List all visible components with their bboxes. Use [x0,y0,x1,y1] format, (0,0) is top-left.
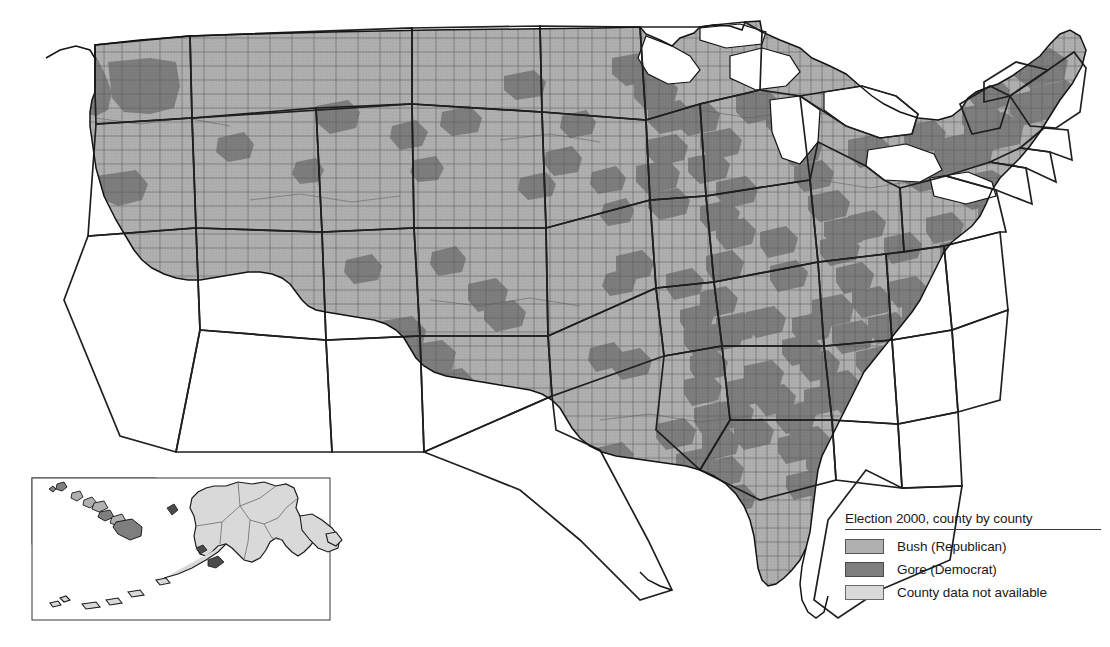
legend-swatch-bush [845,539,884,554]
map-legend: Election 2000, county by county Bush (Re… [845,511,1107,604]
legend-label-gore: Gore (Democrat) [897,562,997,577]
legend-row-gore: Gore (Democrat) [845,558,1107,581]
legend-title: Election 2000, county by county [845,511,1107,529]
legend-swatch-gore [845,562,884,577]
legend-label-bush: Bush (Republican) [897,539,1006,554]
legend-row-no-data: County data not available [845,581,1107,604]
legend-underline [845,529,1101,530]
election-map-figure: Election 2000, county by county Bush (Re… [0,0,1110,647]
legend-label-no-data: County data not available [897,585,1047,600]
legend-swatch-no-data [845,585,884,600]
legend-row-bush: Bush (Republican) [845,535,1107,558]
